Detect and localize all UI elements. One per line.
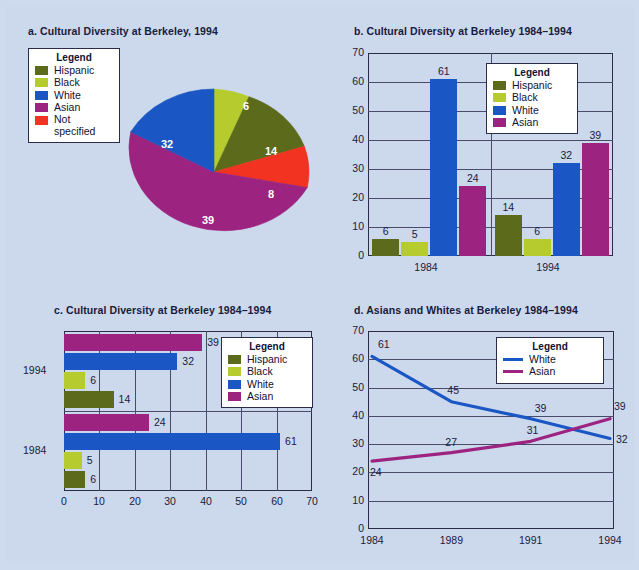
bar-white-1984 <box>64 433 280 450</box>
xtick-1991: 1991 <box>507 534 555 546</box>
swatch-black-icon <box>228 367 241 376</box>
swatch-white-icon <box>228 380 241 389</box>
ytick-10: 10 <box>334 220 364 232</box>
datalabel-white-1994: 32 <box>559 149 573 161</box>
ytick-40: 40 <box>334 409 364 421</box>
legend-item-black: Black <box>493 92 571 103</box>
chart-d-legend: Legend White Asian <box>496 337 604 384</box>
bar-hispanic-1984 <box>372 239 399 256</box>
group-separator <box>64 411 312 412</box>
datalabel-black-1984: 5 <box>87 454 93 466</box>
bar-hispanic-1984 <box>64 471 85 488</box>
legend-label-asian: Asian <box>512 117 538 128</box>
swatch-not-specified-icon <box>35 116 48 125</box>
legend-label-hispanic: Hispanic <box>512 80 552 91</box>
bar-black-1984 <box>64 452 82 469</box>
bar-hispanic-1994 <box>64 391 114 408</box>
legend-item-white: White <box>35 90 113 101</box>
legend-item-asian: Asian <box>493 117 571 128</box>
bar-black-1994 <box>524 239 551 256</box>
legend-label-asian: Asian <box>54 102 80 113</box>
xtick-50: 50 <box>226 495 256 507</box>
chart-panel-a: a. Cultural Diversity at Berkeley, 1994 … <box>6 5 326 295</box>
legend-item-white: White <box>503 354 597 365</box>
legend-label-hispanic: Hispanic <box>54 65 94 76</box>
pie-label-asian: 39 <box>202 214 214 226</box>
datalabel-hispanic-1984: 6 <box>379 225 393 237</box>
legend-item-black: Black <box>35 77 113 88</box>
ytick-60: 60 <box>334 75 364 87</box>
xtick-60: 60 <box>262 495 292 507</box>
datalabel-asian-1994: 39 <box>207 336 219 348</box>
chart-c-ytick-1984: 1984 <box>23 444 46 456</box>
xtick-30: 30 <box>155 495 185 507</box>
line-swatch-asian-icon <box>503 370 523 373</box>
swatch-asian-icon <box>228 392 241 401</box>
legend-label-not-specified: Not specified <box>54 114 106 137</box>
xtick-1984: 1984 <box>348 534 396 546</box>
legend-label-asian: Asian <box>529 366 555 377</box>
xtick-20: 20 <box>120 495 150 507</box>
chart-b-xtick-1984: 1984 <box>386 261 466 273</box>
swatch-hispanic-icon <box>493 81 506 90</box>
bar-asian-1984 <box>459 186 486 256</box>
pie-label-white: 32 <box>161 138 173 150</box>
swatch-black-icon <box>493 93 506 102</box>
datalabel-black-1994: 6 <box>90 374 96 386</box>
datalabel-hispanic-1994: 14 <box>119 393 131 405</box>
pie-chart-a <box>114 67 314 267</box>
datalabel-white-1991: 39 <box>535 402 547 414</box>
datalabel-asian-1994: 39 <box>614 400 626 412</box>
legend-title: Legend <box>503 341 597 352</box>
ytick-0: 0 <box>334 249 364 261</box>
bar-white-1984 <box>430 79 457 256</box>
line-asian <box>372 419 610 461</box>
xtick-70: 70 <box>297 495 327 507</box>
swatch-white-icon <box>493 106 506 115</box>
bar-black-1984 <box>401 242 428 257</box>
figure-inner-frame: a. Cultural Diversity at Berkeley, 1994 … <box>6 5 633 561</box>
ytick-10: 10 <box>334 494 364 506</box>
chart-panel-d: d. Asians and Whites at Berkeley 1984–19… <box>326 295 633 561</box>
ytick-70: 70 <box>334 324 364 336</box>
ytick-0: 0 <box>334 522 364 534</box>
legend-item-hispanic: Hispanic <box>493 80 571 91</box>
legend-item-not-specified: Not specified <box>35 114 113 137</box>
legend-item-hispanic: Hispanic <box>228 354 306 365</box>
xtick-1994: 1994 <box>586 534 634 546</box>
legend-item-asian: Asian <box>228 391 306 402</box>
datalabel-asian-1989: 27 <box>445 436 457 448</box>
chart-b-xtick-1994: 1994 <box>508 261 588 273</box>
ytick-20: 20 <box>334 465 364 477</box>
pie-label-black: 6 <box>243 100 249 112</box>
legend-item-asian: Asian <box>35 102 113 113</box>
datalabel-hispanic-1984: 6 <box>90 473 96 485</box>
bar-black-1994 <box>64 372 85 389</box>
chart-d-title: d. Asians and Whites at Berkeley 1984–19… <box>354 304 578 316</box>
datalabel-black-1984: 5 <box>408 228 422 240</box>
ytick-20: 20 <box>334 191 364 203</box>
bar-white-1994 <box>553 163 580 256</box>
legend-item-hispanic: Hispanic <box>35 65 113 76</box>
xtick-40: 40 <box>191 495 221 507</box>
legend-title: Legend <box>228 341 306 352</box>
line-swatch-white-icon <box>503 358 523 361</box>
datalabel-white-1984: 61 <box>378 338 390 350</box>
chart-panel-c: c. Cultural Diversity at Berkeley 1984–1… <box>6 295 326 561</box>
datalabel-asian-1984: 24 <box>370 466 382 478</box>
datalabel-white-1989: 45 <box>447 384 459 396</box>
swatch-asian-icon <box>35 103 48 112</box>
legend-label-white: White <box>247 379 274 390</box>
datalabel-white-1984: 61 <box>285 435 297 447</box>
ytick-50: 50 <box>334 381 364 393</box>
legend-item-black: Black <box>228 366 306 377</box>
legend-label-black: Black <box>512 92 538 103</box>
pie-label-hispanic: 14 <box>265 145 277 157</box>
ytick-50: 50 <box>334 104 364 116</box>
legend-label-hispanic: Hispanic <box>247 354 287 365</box>
bar-asian-1994 <box>582 143 609 256</box>
ytick-30: 30 <box>334 437 364 449</box>
chart-panel-b: b. Cultural Diversity at Berkeley 1984–1… <box>326 5 633 295</box>
chart-b-title: b. Cultural Diversity at Berkeley 1984–1… <box>354 25 572 37</box>
datalabel-white-1994: 32 <box>616 433 628 445</box>
